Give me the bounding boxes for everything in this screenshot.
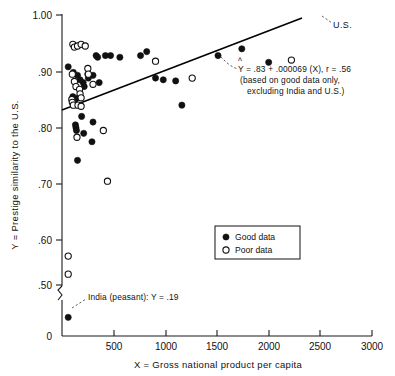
equation-line-2: (based on good data only,: [240, 75, 340, 85]
data-point-good: [117, 54, 123, 60]
us-annotation: U.S.: [322, 16, 352, 30]
y-tick-label-0.80: .80: [38, 123, 52, 134]
x-axis-title: X = Gross national product per capita: [134, 359, 303, 370]
x-tick-label-2000: 2000: [258, 341, 281, 352]
data-point-poor: [152, 58, 158, 64]
data-point-good: [73, 127, 79, 133]
data-point-poor: [90, 81, 96, 87]
data-point-poor: [78, 103, 84, 109]
x-tick-labels: 500 1000 1500 2000 2500 3000: [106, 341, 384, 352]
us-leader-line: [322, 16, 332, 23]
data-point-good: [173, 78, 179, 84]
us-point-label: U.S.: [333, 20, 352, 30]
india-leader-line: [72, 299, 86, 308]
y-axis: [58, 14, 62, 336]
y-tick-label-1.00: 1.00: [33, 10, 53, 21]
data-point-good: [90, 119, 96, 125]
data-point-good: [239, 46, 245, 52]
data-point-poor: [189, 75, 195, 81]
legend-label-poor-data: Poor data: [235, 245, 272, 255]
x-tick-label-500: 500: [106, 341, 123, 352]
y-tick-label-0.70: .70: [38, 179, 52, 190]
data-point-poor: [65, 271, 71, 277]
data-point-good: [79, 113, 85, 119]
y-axis-title: Y = Prestige similarity to the U.S.: [9, 100, 20, 249]
data-point-good: [65, 64, 71, 70]
data-point-poor: [65, 253, 71, 259]
regression-equation-annotation: ^ Y = .83 + .000069 (X), r = .56 (based …: [215, 50, 351, 96]
legend-marker-poor-data: [223, 247, 229, 253]
y-tick-label-0.60: .60: [38, 235, 52, 246]
scatter-plot-figure: 1.00 .90 .80 .70 .60 .50 0 500 1000 1500…: [0, 0, 395, 376]
x-ticks: [114, 330, 372, 336]
data-point-poor: [82, 43, 88, 49]
data-point-good: [107, 52, 113, 58]
data-point-poor: [69, 71, 75, 77]
data-point-good: [74, 157, 80, 163]
data-point-poor: [104, 178, 110, 184]
data-point-good: [89, 139, 95, 145]
equation-line-1: Y = .83 + .000069 (X), r = .56: [238, 64, 351, 74]
data-point-poor: [85, 71, 91, 77]
y-tick-label-0.90: .90: [38, 67, 52, 78]
x-tick-label-1500: 1500: [206, 341, 229, 352]
legend-marker-good-data: [223, 234, 229, 240]
data-point-good: [95, 54, 101, 60]
data-point-poor: [78, 95, 84, 101]
data-point-good: [96, 80, 102, 86]
india-annotation: India (peasant): Y = .19: [72, 292, 179, 308]
india-point-label: India (peasant): Y = .19: [88, 292, 179, 302]
equation-line-3: excluding India and U.S.): [247, 86, 344, 96]
plot-canvas: 1.00 .90 .80 .70 .60 .50 0 500 1000 1500…: [0, 0, 395, 376]
legend: Good data Poor data: [215, 226, 300, 259]
data-point-poor: [288, 57, 294, 63]
data-point-poor: [74, 134, 80, 140]
data-point-poor: [100, 127, 106, 133]
data-point-good: [81, 130, 87, 136]
y-axis-break-icon: [58, 286, 62, 300]
data-point-good: [160, 77, 166, 83]
y-tick-label-0.50: .50: [38, 280, 52, 291]
data-point-good: [65, 314, 71, 320]
data-point-good: [179, 102, 185, 108]
data-point-good: [137, 52, 143, 58]
data-point-good: [152, 75, 158, 81]
y-tick-label-zero: 0: [46, 331, 52, 342]
y-tick-labels: 1.00 .90 .80 .70 .60 .50 0: [33, 10, 53, 342]
data-point-good: [144, 49, 150, 55]
y-ticks: [56, 15, 62, 285]
x-tick-label-1000: 1000: [155, 341, 178, 352]
x-tick-label-3000: 3000: [361, 341, 384, 352]
x-tick-label-2500: 2500: [309, 341, 332, 352]
legend-label-good-data: Good data: [235, 232, 275, 242]
